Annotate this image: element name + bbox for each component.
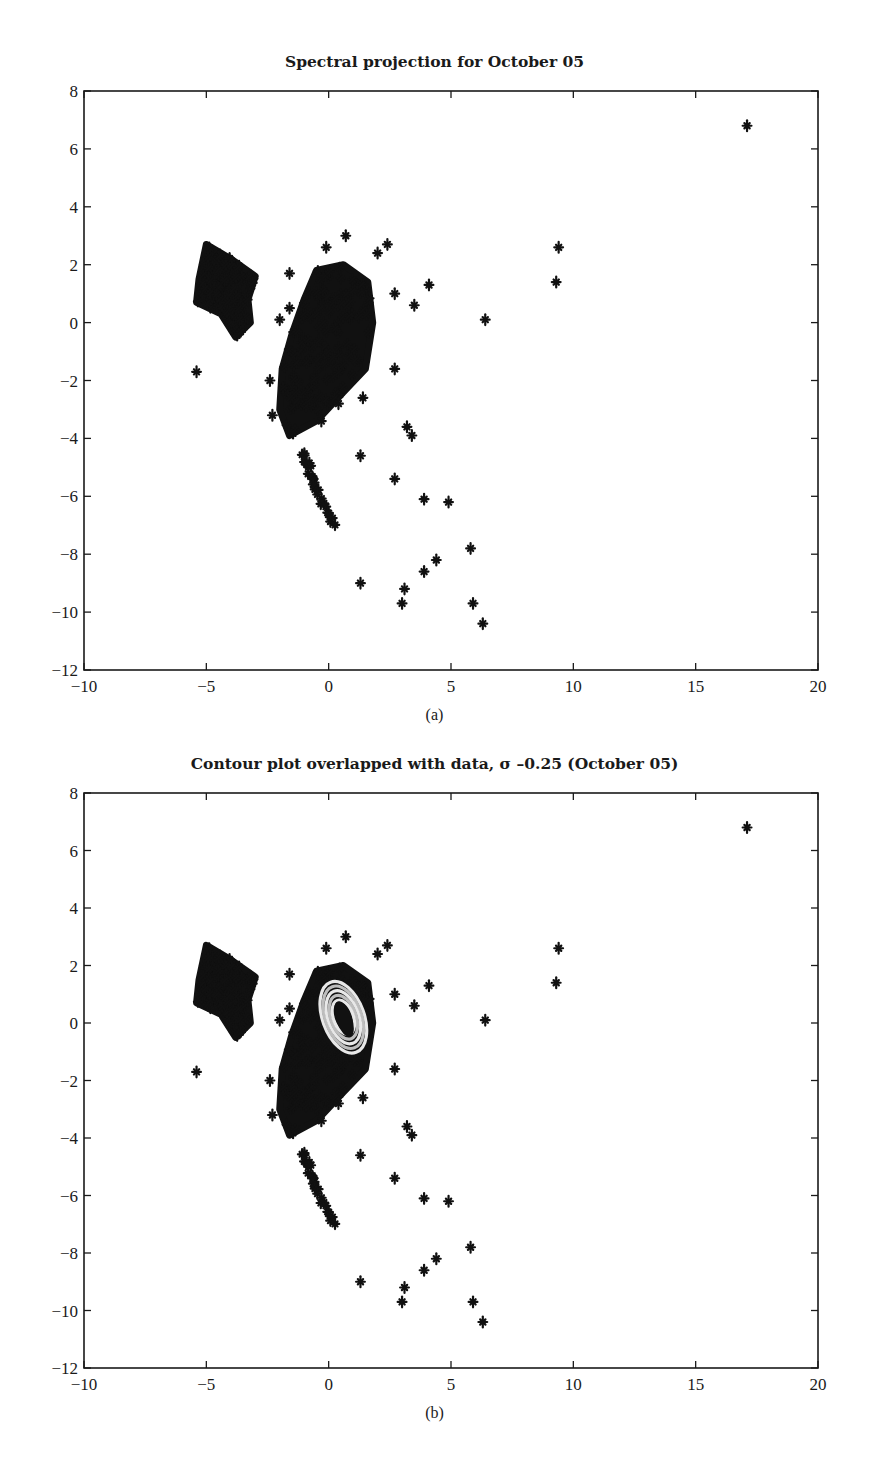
data-point-marker (432, 555, 441, 566)
data-point-marker (285, 303, 294, 314)
data-point-marker (400, 1282, 409, 1293)
x-tick-label: 5 (447, 1375, 456, 1394)
data-point-marker (420, 494, 429, 505)
data-point-marker (420, 1265, 429, 1276)
y-tick-label: 2 (70, 256, 79, 275)
data-point-marker (356, 1276, 365, 1287)
data-point-marker (275, 1015, 284, 1026)
data-point-marker (398, 598, 407, 609)
data-point-marker (390, 989, 399, 1000)
data-point-marker (478, 618, 487, 629)
data-point-marker (266, 1075, 275, 1086)
data-point-marker (359, 392, 368, 403)
y-tick-label: −6 (60, 1187, 78, 1206)
data-point-marker (356, 1150, 365, 1161)
data-point-marker (268, 410, 277, 421)
data-point-marker (373, 949, 382, 960)
data-points (192, 120, 751, 629)
data-point-marker (341, 931, 350, 942)
x-tick-label: 0 (324, 1375, 333, 1394)
y-tick-label: 6 (70, 842, 79, 861)
data-point-marker (359, 1092, 368, 1103)
data-point-marker (481, 1015, 490, 1026)
data-point-marker (390, 288, 399, 299)
data-point-marker (481, 314, 490, 325)
data-point-marker (407, 1130, 416, 1141)
x-tick-label: 15 (687, 1375, 704, 1394)
data-point-marker (356, 450, 365, 461)
x-axis: −10−505101520 (71, 91, 827, 696)
scatter-plot-b: −10−50510152086420−2−4−6−8−10−12 (0, 740, 869, 1466)
data-point-marker (420, 1193, 429, 1204)
y-tick-label: −6 (60, 487, 78, 506)
data-point-marker (478, 1317, 487, 1328)
y-tick-label: 6 (70, 140, 79, 159)
x-tick-label: 5 (447, 677, 456, 696)
data-point-marker (268, 1110, 277, 1121)
y-tick-label: −10 (51, 1302, 78, 1321)
data-point-marker (743, 822, 752, 833)
data-point-marker (192, 366, 201, 377)
y-tick-label: 8 (70, 784, 79, 803)
data-point-marker (410, 1000, 419, 1011)
data-point-marker (469, 1296, 478, 1307)
y-tick-label: 8 (70, 82, 79, 101)
caption-b: (b) (0, 1404, 869, 1422)
data-point-marker (552, 277, 561, 288)
data-point-marker (192, 1066, 201, 1077)
y-axis: 86420−2−4−6−8−10−12 (51, 82, 818, 680)
data-point-marker (383, 239, 392, 250)
y-tick-label: 0 (70, 314, 79, 333)
x-axis: −10−505101520 (71, 793, 827, 1394)
data-point-marker (285, 969, 294, 980)
plot-frame (84, 91, 818, 670)
data-point-marker (398, 1296, 407, 1307)
data-point-marker (432, 1253, 441, 1264)
x-tick-label: 0 (324, 677, 333, 696)
data-point-marker (410, 300, 419, 311)
x-tick-label: 15 (687, 677, 704, 696)
x-tick-label: 20 (810, 677, 827, 696)
data-point-marker (322, 943, 331, 954)
data-point-marker (425, 280, 434, 291)
data-point-marker (390, 1173, 399, 1184)
y-tick-label: −2 (60, 1072, 78, 1091)
x-tick-label: 10 (565, 677, 582, 696)
data-point-marker (554, 943, 563, 954)
y-tick-label: −4 (60, 429, 79, 448)
data-point-marker (322, 242, 331, 253)
data-point-marker (420, 566, 429, 577)
caption-a: (a) (0, 706, 869, 724)
x-tick-label: −5 (197, 677, 215, 696)
x-tick-label: −5 (197, 1375, 215, 1394)
data-point-marker (383, 940, 392, 951)
y-tick-label: −4 (60, 1129, 79, 1148)
y-tick-label: −12 (51, 1359, 78, 1378)
data-point-marker (444, 497, 453, 508)
x-tick-label: 10 (565, 1375, 582, 1394)
data-point-marker (552, 977, 561, 988)
data-point-marker (390, 474, 399, 485)
data-point-marker (400, 584, 409, 595)
data-point-marker (403, 421, 412, 432)
data-point-marker (341, 230, 350, 241)
data-point-marker (373, 248, 382, 259)
y-tick-label: 0 (70, 1014, 79, 1033)
data-point-marker (275, 314, 284, 325)
y-tick-label: 4 (70, 899, 79, 918)
y-tick-label: −10 (51, 603, 78, 622)
data-point-marker (407, 430, 416, 441)
data-point-marker (266, 375, 275, 386)
data-point-marker (285, 268, 294, 279)
data-point-marker (466, 1242, 475, 1253)
data-point-marker (466, 543, 475, 554)
scatter-plot-a: −10−50510152086420−2−4−6−8−10−12 (0, 0, 869, 740)
y-tick-label: 2 (70, 957, 79, 976)
data-point-marker (390, 364, 399, 375)
data-point-marker (554, 242, 563, 253)
y-tick-label: −12 (51, 661, 78, 680)
data-point-marker (356, 578, 365, 589)
figure-a: Spectral projection for October 05 −10−5… (0, 0, 869, 740)
data-point-marker (743, 120, 752, 131)
data-point-marker (285, 1003, 294, 1014)
